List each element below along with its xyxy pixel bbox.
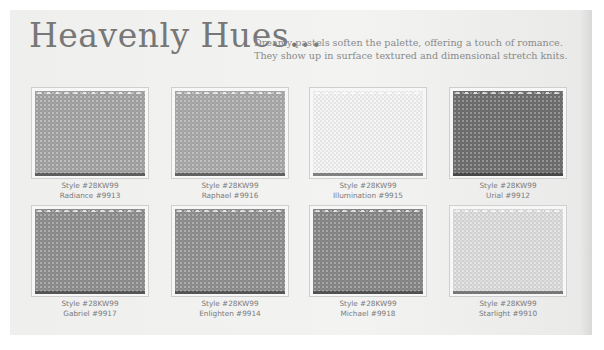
swatch-style: Style #28KW99 (171, 299, 289, 309)
swatch-card: Style #28KW99Starlight #9910 (449, 205, 567, 318)
swatch-frame (309, 205, 427, 297)
fabric-swatch (35, 91, 145, 176)
fabric-swatch (313, 91, 423, 176)
swatch-style: Style #28KW99 (449, 299, 567, 309)
swatch-name: Starlight #9910 (449, 309, 567, 319)
swatch-card: Style #28KW99Raphael #9916 (171, 87, 289, 200)
tagline-line-1: Dreamy pastels soften the palette, offer… (254, 36, 567, 49)
swatch-card: Style #28KW99Enlighten #9914 (171, 205, 289, 318)
swatch-style: Style #28KW99 (31, 299, 149, 309)
swatch-name: Urial #9912 (449, 191, 567, 201)
page-edge-shadow (580, 10, 592, 335)
fabric-swatch (453, 91, 563, 176)
swatch-card: Style #28KW99Urial #9912 (449, 87, 567, 200)
fabric-swatch (35, 209, 145, 294)
swatch-frame (31, 87, 149, 179)
swatch-card: Style #28KW99Illumination #9915 (309, 87, 427, 200)
swatch-name: Michael #9918 (309, 309, 427, 319)
swatch-name: Raphael #9916 (171, 191, 289, 201)
swatch-frame (31, 205, 149, 297)
swatch-frame (171, 87, 289, 179)
swatch-card: Style #28KW99Michael #9918 (309, 205, 427, 318)
swatch-name: Illumination #9915 (309, 191, 427, 201)
swatch-name: Enlighten #9914 (171, 309, 289, 319)
fabric-swatch (453, 209, 563, 294)
swatch-frame (449, 87, 567, 179)
swatch-name: Gabriel #9917 (31, 309, 149, 319)
swatch-card: Style #28KW99Gabriel #9917 (31, 205, 149, 318)
swatch-name: Radiance #9913 (31, 191, 149, 201)
swatch-card: Style #28KW99Radiance #9913 (31, 87, 149, 200)
tagline: Dreamy pastels soften the palette, offer… (254, 36, 567, 62)
swatch-style: Style #28KW99 (309, 299, 427, 309)
swatch-style: Style #28KW99 (449, 181, 567, 191)
tagline-line-2: They show up in surface textured and dim… (254, 49, 567, 62)
swatch-frame (171, 205, 289, 297)
swatch-style: Style #28KW99 (309, 181, 427, 191)
swatch-frame (309, 87, 427, 179)
swatch-frame (449, 205, 567, 297)
swatch-style: Style #28KW99 (31, 181, 149, 191)
fabric-swatch (175, 91, 285, 176)
fabric-swatch (313, 209, 423, 294)
fabric-swatch (175, 209, 285, 294)
swatch-style: Style #28KW99 (171, 181, 289, 191)
